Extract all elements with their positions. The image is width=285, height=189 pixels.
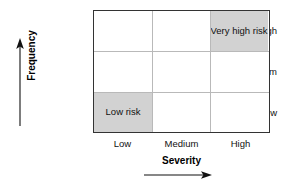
risk-matrix-figure: Frequency High Medium Low Very high risk… <box>0 0 285 189</box>
cell-high-severity-high-frequency[interactable]: Very high risk <box>210 11 268 51</box>
x-axis-tick-low: Low <box>93 138 152 149</box>
cell-high-severity-medium-frequency[interactable] <box>210 52 268 92</box>
cell-low-severity-high-frequency[interactable] <box>94 11 152 51</box>
y-axis-title: Frequency <box>26 16 37 96</box>
x-axis-tick-medium: Medium <box>152 138 211 149</box>
gridline-horizontal-2 <box>94 92 269 93</box>
gridline-horizontal-1 <box>94 51 269 52</box>
cell-medium-severity-low-frequency[interactable] <box>152 92 210 132</box>
cell-medium-severity-medium-frequency[interactable] <box>152 52 210 92</box>
x-axis-title: Severity <box>93 155 270 166</box>
cell-label-very-high-risk: Very high risk <box>210 26 267 37</box>
cell-low-severity-low-frequency[interactable]: Low risk <box>94 92 152 132</box>
cell-label-low-risk: Low risk <box>106 107 141 118</box>
x-axis-tick-high: High <box>211 138 270 149</box>
risk-matrix-grid: Very high risk Low risk <box>93 10 270 133</box>
gridline-vertical-1 <box>152 11 153 132</box>
severity-right-arrow-icon <box>142 168 216 182</box>
cell-low-severity-medium-frequency[interactable] <box>94 52 152 92</box>
gridline-vertical-2 <box>210 11 211 132</box>
cell-high-severity-low-frequency[interactable] <box>210 92 268 132</box>
cell-medium-severity-high-frequency[interactable] <box>152 11 210 51</box>
